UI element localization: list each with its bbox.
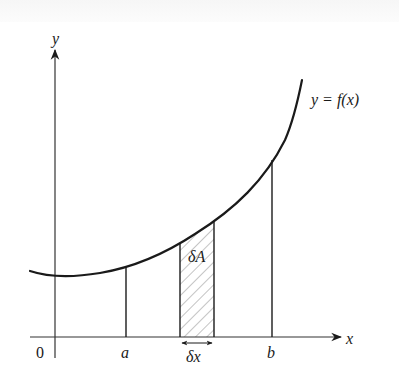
area-under-curve-diagram: y x 0 a b δA δx y = f(x) — [0, 0, 399, 392]
origin-label: 0 — [36, 344, 44, 361]
marker-b-label: b — [267, 344, 275, 361]
x-axis-label: x — [345, 330, 353, 347]
curve-f-of-x — [30, 80, 302, 276]
curve-label: y = f(x) — [309, 91, 359, 109]
marker-a-label: a — [121, 344, 129, 361]
y-axis-label: y — [50, 30, 60, 48]
delta-a-label: δA — [188, 248, 205, 265]
delta-x-label: δx — [186, 348, 201, 365]
